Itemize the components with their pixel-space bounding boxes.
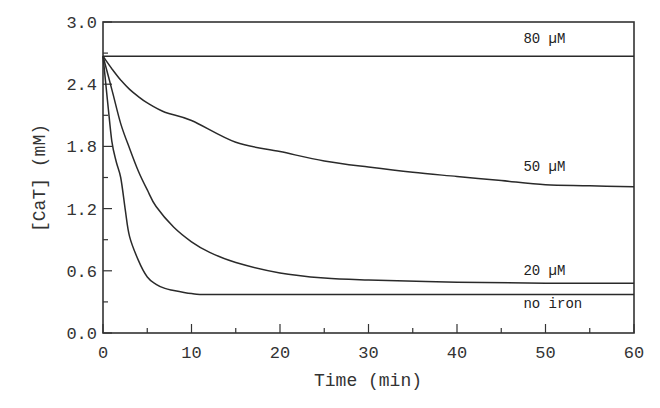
- x-tick-label: 40: [447, 344, 467, 363]
- y-tick-label: 3.0: [66, 14, 97, 33]
- x-tick-labels: 0102030405060: [98, 344, 644, 363]
- y-tick-labels: 0.00.61.21.82.43.0: [66, 14, 97, 344]
- y-tick-label: 2.4: [66, 76, 97, 95]
- x-tick-label: 0: [98, 344, 108, 363]
- x-tick-label: 10: [181, 344, 201, 363]
- x-tick-label: 30: [358, 344, 378, 363]
- x-tick-label: 60: [624, 344, 644, 363]
- plot-border: [103, 22, 634, 333]
- series-label: 50 µM: [523, 159, 565, 175]
- series-labels: 80 µM50 µM20 µMno iron: [523, 31, 582, 312]
- plot-frame: [103, 22, 634, 333]
- series-line-no-iron: [103, 56, 634, 294]
- y-tick-label: 1.8: [66, 138, 97, 157]
- y-axis-title: [CaT] (mM): [30, 124, 50, 232]
- y-tick-label: 0.6: [66, 263, 97, 282]
- series-label: 20 µM: [523, 263, 565, 279]
- series-label: no iron: [523, 296, 582, 312]
- data-series: [103, 56, 634, 294]
- x-axis-title: Time (min): [314, 371, 422, 391]
- x-tick-label: 20: [270, 344, 290, 363]
- y-tick-label: 0.0: [66, 325, 97, 344]
- chart: 0102030405060 0.00.61.21.82.43.0 80 µM50…: [0, 0, 660, 408]
- y-tick-label: 1.2: [66, 201, 97, 220]
- x-tick-label: 50: [535, 344, 555, 363]
- axis-ticks: [103, 22, 634, 333]
- series-label: 80 µM: [523, 31, 565, 47]
